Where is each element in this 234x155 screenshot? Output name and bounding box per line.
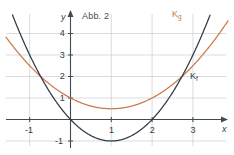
figure-title: Abb. 2	[82, 12, 109, 21]
x-tick-label-1: 1	[109, 126, 114, 135]
y-tick-label-1: 3	[60, 51, 65, 60]
x-tick-label-2: 2	[150, 126, 155, 135]
curve-label-kg: Kg	[172, 10, 182, 20]
x-tick-label-0: -1	[25, 126, 33, 135]
x-axis-label: x	[222, 125, 227, 134]
curve-label-kf-sub: f	[196, 75, 198, 82]
y-tick-label-4: -1	[55, 137, 63, 146]
x-tick-label-3: 3	[191, 126, 196, 135]
y-tick-label-3: 1	[60, 94, 65, 103]
y-tick-label-0: 4	[60, 29, 65, 38]
coordinate-plot	[0, 0, 234, 155]
curve-label-kf: Kf	[190, 72, 198, 82]
curve-label-kg-sub: g	[178, 13, 182, 20]
y-tick-label-2: 2	[60, 72, 65, 81]
figure-container: Abb. 2 y x Kg Kf -11234321-1	[0, 0, 234, 155]
y-axis-label: y	[61, 13, 66, 22]
